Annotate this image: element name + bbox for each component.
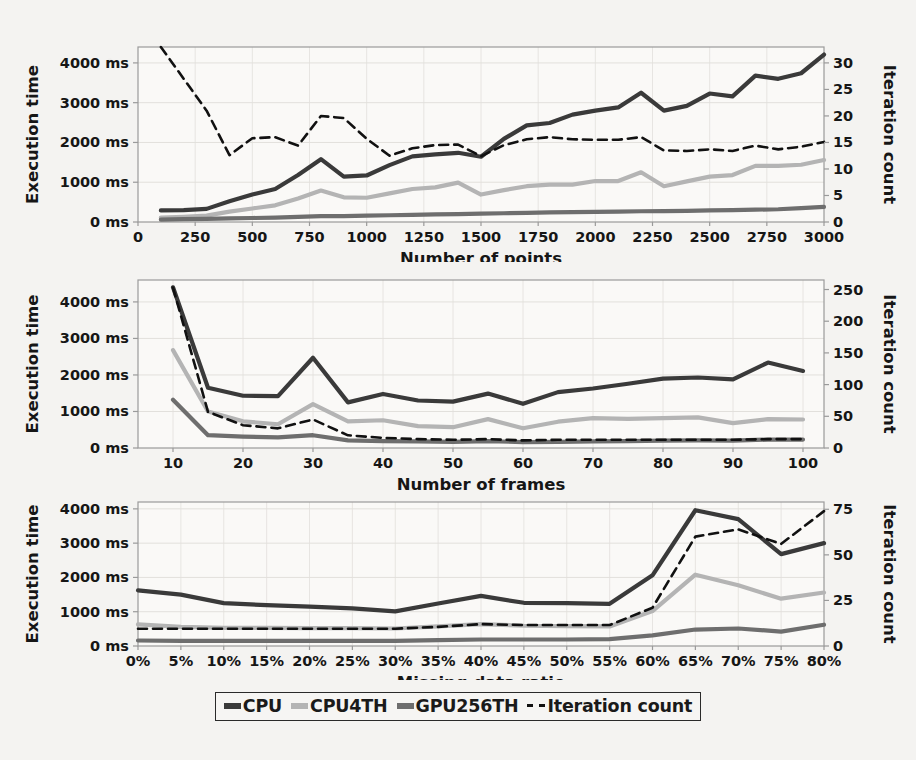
chart-panel-number-of-points: 0 ms1000 ms2000 ms3000 ms4000 ms05101520… [0,0,916,262]
ytick-label-right: 75 [833,501,853,517]
xtick-label: 25% [335,653,370,669]
ytick-label-right: 15 [833,134,853,150]
xtick-label: 60 [513,455,533,471]
ytick-label-left: 0 ms [90,440,129,456]
xtick-label: 250 [180,229,210,245]
y-axis-title: Execution time [23,505,42,644]
ytick-label-right: 25 [833,81,853,97]
xtick-label: 50% [549,653,584,669]
figure-multi-panel-line-charts: 0 ms1000 ms2000 ms3000 ms4000 ms05101520… [0,0,916,760]
ytick-label-left: 3000 ms [60,95,129,111]
y-axis-title: Execution time [23,65,42,204]
xtick-label: 0% [126,653,151,669]
xtick-label: 0 [133,229,143,245]
xtick-label: 65% [678,653,713,669]
legend-box: CPUCPU4THGPU256THIteration count [215,692,701,721]
legend-swatch-icon [291,703,308,709]
ytick-label-right: 25 [833,592,853,608]
xtick-label: 2750 [747,229,787,245]
ytick-label-left: 4000 ms [60,294,129,310]
ytick-label-left: 0 ms [90,214,129,230]
xtick-label: 100 [788,455,818,471]
xtick-label: 45% [507,653,542,669]
ytick-label-left: 1000 ms [60,403,129,419]
ytick-label-right: 50 [833,547,853,563]
xtick-label: 1250 [404,229,444,245]
legend-swatch-icon [224,703,241,709]
xtick-label: 3000 [804,229,844,245]
ytick-label-left: 2000 ms [60,134,129,150]
xtick-label: 2500 [689,229,729,245]
ytick-label-right: 0 [833,440,843,456]
xtick-label: 70% [721,653,756,669]
ytick-label-left: 3000 ms [60,330,129,346]
legend-item-label: CPU4TH [310,696,387,716]
xtick-label: 20 [233,455,253,471]
y2-axis-title: Iteration count [880,504,899,643]
ytick-label-left: 4000 ms [60,501,129,517]
ytick-label-right: 30 [833,55,853,71]
xtick-label: 20% [292,653,327,669]
ytick-label-right: 150 [833,345,863,361]
xtick-label: 15% [249,653,284,669]
ytick-label-right: 20 [833,108,853,124]
ytick-label-right: 0 [833,214,843,230]
xtick-label: 35% [421,653,456,669]
xtick-label: 70 [583,455,603,471]
ytick-label-left: 0 ms [90,638,129,654]
xtick-label: 40 [373,455,393,471]
xtick-label: 10% [206,653,241,669]
xtick-label: 1500 [461,229,501,245]
y-axis-title: Execution time [23,295,42,434]
chart-svg: 0 ms1000 ms2000 ms3000 ms4000 ms02550750… [0,494,916,680]
ytick-label-right: 200 [833,313,863,329]
xtick-label: 5% [169,653,194,669]
ytick-label-right: 50 [833,408,853,424]
xtick-label: 80 [653,455,673,471]
legend-item-cpu: CPU [224,696,282,716]
legend-swatch-icon [527,704,545,707]
xtick-label: 30 [303,455,323,471]
ytick-label-left: 1000 ms [60,174,129,190]
xtick-label: 500 [237,229,267,245]
legend-item-gpu256th: GPU256TH [397,696,519,716]
chart-panel-number-of-frames: 0 ms1000 ms2000 ms3000 ms4000 ms05010015… [0,262,916,494]
ytick-label-right: 250 [833,282,863,298]
legend-item-cpu4th: CPU4TH [291,696,387,716]
xtick-label: 10 [163,455,183,471]
y2-axis-title: Iteration count [880,65,899,204]
xtick-label: 2000 [575,229,615,245]
ytick-label-left: 1000 ms [60,604,129,620]
xtick-label: 1000 [346,229,386,245]
legend-swatch-icon [397,703,414,709]
xtick-label: 50 [443,455,463,471]
xtick-label: 1750 [518,229,558,245]
chart-svg: 0 ms1000 ms2000 ms3000 ms4000 ms05010015… [0,262,916,494]
ytick-label-right: 0 [833,638,843,654]
xtick-label: 90 [723,455,743,471]
legend-item-iteration-count: Iteration count [527,696,692,716]
legend-item-label: CPU [243,696,282,716]
legend-item-label: GPU256TH [416,696,519,716]
ytick-label-left: 2000 ms [60,367,129,383]
xtick-label: 2250 [632,229,672,245]
xtick-label: 40% [464,653,499,669]
xtick-label: 750 [294,229,324,245]
xtick-label: 30% [378,653,413,669]
x-axis-title: Number of frames [397,475,566,494]
chart-svg: 0 ms1000 ms2000 ms3000 ms4000 ms05101520… [0,0,916,262]
xtick-label: 55% [592,653,627,669]
ytick-label-right: 10 [833,161,853,177]
legend: CPUCPU4THGPU256THIteration count [0,686,916,726]
chart-panel-missing-data-ratio: 0 ms1000 ms2000 ms3000 ms4000 ms02550750… [0,494,916,680]
ytick-label-left: 4000 ms [60,55,129,71]
xtick-label: 60% [635,653,670,669]
ytick-label-left: 3000 ms [60,535,129,551]
ytick-label-right: 100 [833,377,863,393]
legend-item-label: Iteration count [547,696,692,716]
xtick-label: 75% [764,653,799,669]
x-axis-title: Missing data ratio [397,673,566,680]
ytick-label-right: 5 [833,187,843,203]
y2-axis-title: Iteration count [880,294,899,433]
x-axis-title: Number of points [400,249,562,262]
